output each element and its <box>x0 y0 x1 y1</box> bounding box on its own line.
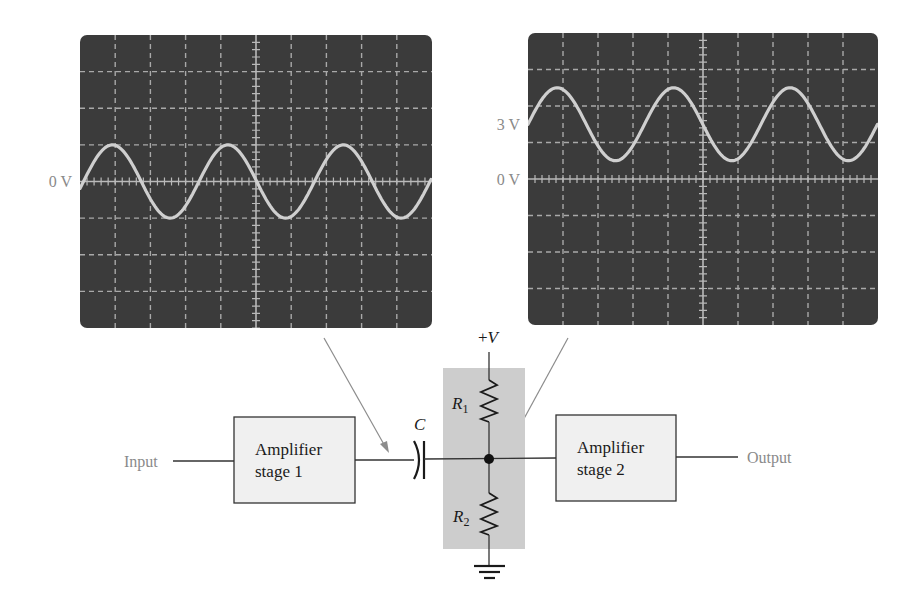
coupling-capacitor-symbol: C <box>414 415 426 479</box>
oscilloscope-after-capacitor: 3 V0 V <box>497 33 878 325</box>
voltage-level-label: 0 V <box>49 173 73 190</box>
supply-voltage-label: +V <box>478 328 501 347</box>
amplifier-stage-2-block: Amplifier stage 2 <box>556 415 676 501</box>
stage-1-line1: Amplifier <box>255 440 322 459</box>
junction-dot <box>484 454 494 464</box>
stage-1-line2: stage 1 <box>255 462 303 481</box>
stage-2-line2: stage 2 <box>577 460 625 479</box>
oscilloscope-before-capacitor: 0 V <box>49 35 432 328</box>
output-label: Output <box>747 449 792 467</box>
voltage-level-label: 3 V <box>497 116 521 133</box>
stage-2-line1: Amplifier <box>577 438 644 457</box>
ground-icon <box>474 566 505 578</box>
input-label: Input <box>124 453 158 471</box>
capacitor-label: C <box>414 415 426 434</box>
amplifier-stage-1-block: Amplifier stage 1 <box>234 417 355 503</box>
amplifier-coupling-diagram: 0 V 3 V0 V Input Amplifier stage 1 C +V … <box>0 0 907 611</box>
voltage-level-label: 0 V <box>497 171 521 188</box>
